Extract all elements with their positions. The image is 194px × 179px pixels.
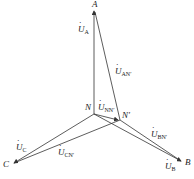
label-UBN: UBN′ [151,130,167,140]
point-N-label: N [85,103,91,112]
phasor-vectors [0,0,194,179]
vector-UNN [94,114,118,120]
label-UAN: UAN′ [115,67,131,77]
vector-UC [14,114,94,163]
label-UA: UA [78,25,89,35]
point-B-label: B [185,158,191,167]
point-Nprime-label: N′ [122,111,130,120]
label-UCN: UCN′ [58,148,74,158]
label-UNN: UNN′ [98,103,114,113]
phasor-diagram: A B C N N′ UA UAN′ UNN′ UBN′ UB UC UCN′ [0,0,194,179]
point-A-label: A [92,0,98,9]
point-C-label: C [3,160,9,169]
vector-UBN [120,120,181,161]
label-UB: UB [165,162,176,172]
label-UC: UC [16,143,27,153]
